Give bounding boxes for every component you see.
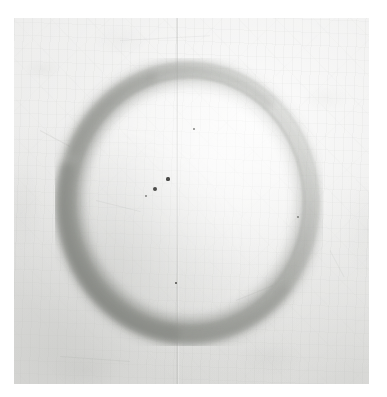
scratch-bottom — [60, 356, 130, 362]
speck-upper-left — [153, 187, 157, 191]
paper-fibre-texture — [14, 18, 369, 384]
circle-drawing — [55, 58, 323, 346]
paper-crease — [176, 18, 179, 384]
speck-right-faint — [297, 216, 299, 218]
speck-lower — [175, 282, 178, 285]
speck-upper — [166, 177, 169, 180]
scratch-top-band — [120, 35, 210, 41]
paper-sheet — [14, 18, 369, 384]
paper-lighting-gradient — [14, 18, 369, 384]
speck-left-faint — [145, 195, 147, 197]
scratch-mid-left — [96, 200, 141, 212]
scratch-upper-left — [40, 130, 70, 147]
scratch-right-edge — [330, 250, 345, 277]
scratch-lower-right — [236, 285, 273, 301]
speck-top-faint — [193, 128, 195, 130]
paper-blotches — [14, 18, 369, 384]
scan-softening-overlay — [14, 18, 369, 384]
artboard: Faint circle drawing on aged paper graph… — [0, 0, 387, 397]
